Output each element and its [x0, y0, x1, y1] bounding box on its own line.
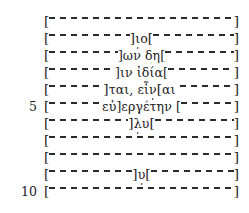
lacuna-dashes: [49, 162, 132, 179]
edition-line: [ ]ιν ἰδία[ ]: [0, 60, 249, 77]
lacuna-dashes: [49, 77, 103, 94]
edition-line: 10 [ ]: [0, 179, 249, 196]
lacuna-dashes: [49, 9, 233, 26]
lacuna-dashes: [49, 94, 102, 111]
edition-line: 5 [ εὐ]εργέτην [ ]: [0, 94, 249, 111]
dotted-letter: ν: [149, 82, 157, 97]
inscription-edition: [ ] [ ]ιο[ ] [ ]ων δη[ ] [ ]ι: [0, 0, 249, 213]
lacuna-dashes: [155, 111, 234, 128]
lacuna-dashes: [49, 60, 115, 77]
lacuna-dashes: [151, 162, 234, 179]
edition-line: [ ]: [0, 128, 249, 145]
line-number: 5: [0, 98, 44, 115]
lacuna-dashes: [49, 111, 128, 128]
edition-line: [ ]υ[ ]: [0, 162, 249, 179]
lacuna-dashes: [180, 77, 234, 94]
lacuna-dashes: [181, 94, 234, 111]
edition-line: [ ]: [0, 145, 249, 162]
line-number: 10: [0, 183, 44, 200]
line-text: [ ]: [44, 179, 249, 200]
lacuna-dashes: [49, 43, 118, 60]
lacuna-dashes: [49, 145, 233, 162]
dotted-letter: ι: [135, 31, 140, 46]
lacuna-dashes: [165, 43, 234, 60]
bracket-close: ]: [234, 183, 239, 200]
edition-line: [ ]ται, εἶν[αι ]: [0, 77, 249, 94]
edition-line: [ ]ων δη[ ]: [0, 43, 249, 60]
edition-line: [ ]: [0, 9, 249, 26]
lacuna-dashes: [49, 26, 129, 43]
edition-line: [ ]ιο[ ]: [0, 26, 249, 43]
lacuna-dashes: [153, 26, 233, 43]
lacuna-dashes: [168, 60, 234, 77]
lacuna-dashes: [49, 128, 233, 145]
lacuna-dashes: [49, 179, 233, 196]
